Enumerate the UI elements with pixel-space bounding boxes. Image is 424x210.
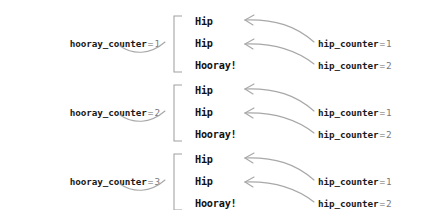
outer-counter-label: hooray_counter=1	[0, 39, 160, 48]
inner-counter-arrow	[245, 182, 314, 202]
inner-counter-equals: =	[378, 129, 386, 140]
inner-counter-varname: hip_counter	[318, 60, 378, 71]
arrowhead	[245, 39, 254, 44]
outer-counter-varname: hooray_counter	[70, 107, 147, 118]
inner-counter-equals: =	[378, 38, 386, 49]
outer-counter-label: hooray_counter=2	[0, 108, 160, 117]
inner-counter-label: hip_counter=1	[318, 39, 392, 48]
arrowhead	[245, 158, 253, 163]
loop-trace-diagram: hooray_counter=1 Hip Hip Hooray! hip_cou…	[0, 0, 424, 210]
inner-counter-equals: =	[378, 107, 386, 118]
outer-counter-label: hooray_counter=3	[0, 177, 160, 186]
arrowhead	[245, 20, 253, 25]
output-line: Hooray!	[195, 130, 237, 140]
output-line: Hip	[195, 177, 213, 187]
output-line: Hip	[195, 39, 213, 49]
inner-counter-value: 2	[386, 198, 392, 209]
arrowhead	[245, 89, 253, 94]
arrowhead	[245, 44, 253, 49]
inner-counter-equals: =	[378, 198, 386, 209]
inner-counter-label: hip_counter=2	[318, 130, 392, 139]
group-bracket	[174, 16, 182, 72]
output-line: Hip	[195, 108, 213, 118]
outer-counter-value: 2	[154, 107, 160, 118]
inner-counter-value: 2	[386, 129, 392, 140]
outer-counter-value: 3	[154, 176, 160, 187]
inner-counter-arrow	[245, 44, 314, 64]
output-line: Hip	[195, 86, 213, 96]
group-bracket	[174, 85, 182, 141]
arrowhead	[245, 182, 253, 187]
inner-counter-label: hip_counter=1	[318, 108, 392, 117]
output-line: Hooray!	[195, 61, 237, 71]
output-line: Hooray!	[195, 199, 237, 209]
inner-counter-equals: =	[378, 60, 386, 71]
output-line: Hip	[195, 17, 213, 27]
arrowhead	[245, 84, 254, 89]
group-bracket	[174, 154, 182, 210]
outer-counter-value: 1	[154, 38, 160, 49]
inner-counter-arrow	[245, 113, 314, 133]
outer-counter-varname: hooray_counter	[70, 38, 147, 49]
arrowhead	[245, 15, 254, 20]
inner-counter-arrow	[245, 89, 314, 111]
arrowhead	[245, 108, 254, 113]
inner-counter-label: hip_counter=2	[318, 199, 392, 208]
inner-counter-varname: hip_counter	[318, 107, 378, 118]
inner-counter-value: 1	[386, 176, 392, 187]
inner-counter-arrow	[245, 20, 314, 42]
inner-counter-varname: hip_counter	[318, 129, 378, 140]
output-line: Hip	[195, 155, 213, 165]
inner-counter-equals: =	[378, 176, 386, 187]
inner-counter-value: 1	[386, 107, 392, 118]
inner-counter-value: 2	[386, 60, 392, 71]
inner-counter-label: hip_counter=1	[318, 177, 392, 186]
inner-counter-varname: hip_counter	[318, 38, 378, 49]
inner-counter-varname: hip_counter	[318, 176, 378, 187]
inner-counter-label: hip_counter=2	[318, 61, 392, 70]
arrowhead	[245, 113, 253, 118]
outer-counter-varname: hooray_counter	[70, 176, 147, 187]
inner-counter-arrow	[245, 158, 314, 180]
arrowhead	[245, 153, 254, 158]
inner-counter-value: 1	[386, 38, 392, 49]
inner-counter-varname: hip_counter	[318, 198, 378, 209]
arrowhead	[245, 177, 254, 182]
